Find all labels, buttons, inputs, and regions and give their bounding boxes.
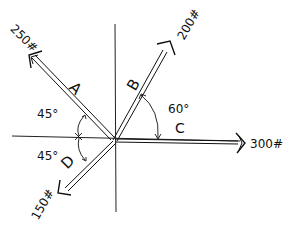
force-diagram: A B C D 250# 200# 300# 150# 45° 45° 60°: [0, 0, 293, 230]
angle-label-a: 45°: [37, 107, 58, 121]
angle-arc-60: [141, 95, 158, 138]
arrowhead-c-icon: [236, 133, 245, 153]
magnitude-b: 200#: [174, 7, 203, 43]
arrowhead-d-icon: [58, 180, 71, 195]
vector-c: [115, 133, 245, 153]
angle-label-d: 45°: [37, 149, 58, 163]
vector-b-label: B: [123, 76, 144, 94]
angle-arc-d: [78, 138, 85, 160]
magnitude-a: 250#: [7, 22, 40, 55]
vector-b: [113, 41, 175, 141]
vector-d-label: D: [57, 152, 78, 173]
angle-arc-a: [78, 116, 84, 136]
angle-label-60: 60°: [168, 102, 189, 116]
magnitude-c: 300#: [250, 137, 283, 151]
vector-c-label: C: [175, 120, 185, 136]
diagram-canvas: A B C D 250# 200# 300# 150# 45° 45° 60°: [0, 0, 293, 230]
magnitude-d: 150#: [28, 187, 57, 223]
vertical-axis: [115, 24, 116, 212]
